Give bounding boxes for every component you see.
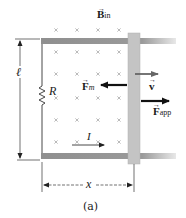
field-x-mark <box>117 50 120 53</box>
field-x-mark <box>117 28 120 31</box>
field-x-mark <box>96 28 99 31</box>
field-x-mark <box>54 28 57 31</box>
field-x-mark <box>117 118 120 121</box>
displacement-label: x <box>86 178 91 190</box>
sliding-bar-diagram: → Bin → Fm → v → Fapp R ℓ x I (a) <box>0 0 186 218</box>
field-x-mark <box>117 96 120 99</box>
field-x-mark <box>96 96 99 99</box>
field-x-mark <box>96 72 99 75</box>
applied-force-label: → Fapp <box>153 106 171 117</box>
field-x-mark <box>96 50 99 53</box>
field-x-mark <box>54 72 57 75</box>
resistor-label: R <box>49 85 56 97</box>
b-field-subscript: in <box>104 11 110 20</box>
field-x-mark <box>54 140 57 143</box>
field-x-mark <box>96 118 99 121</box>
field-x-mark <box>75 140 78 143</box>
field-x-mark <box>117 72 120 75</box>
field-x-mark <box>75 96 78 99</box>
sliding-bar <box>128 33 140 164</box>
magnetic-field-label: → Bin <box>97 9 111 20</box>
current-label: I <box>87 131 91 142</box>
field-x-mark <box>96 140 99 143</box>
magnetic-force-label: → Fm <box>82 81 95 92</box>
velocity-label: → v <box>149 81 155 92</box>
field-x-mark <box>75 50 78 53</box>
top-rail <box>41 38 176 44</box>
field-x-mark <box>117 140 120 143</box>
resistor-wire <box>39 44 45 153</box>
bottom-rail <box>41 153 176 159</box>
figure-caption: (a) <box>83 201 98 212</box>
f-m-subscript: m <box>89 83 95 92</box>
field-x-mark <box>75 118 78 121</box>
length-dimension <box>15 39 40 160</box>
field-x-mark <box>75 72 78 75</box>
field-x-mark <box>54 50 57 53</box>
field-x-mark <box>75 28 78 31</box>
length-label: ℓ <box>16 66 21 78</box>
f-app-subscript: app <box>160 108 172 117</box>
field-x-mark <box>54 118 57 121</box>
